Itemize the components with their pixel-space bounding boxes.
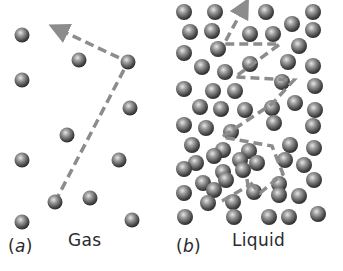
molecule — [258, 4, 274, 20]
gas-title: Gas — [68, 230, 101, 250]
molecule — [291, 188, 307, 204]
molecule — [123, 101, 138, 116]
molecule — [226, 209, 242, 225]
molecule — [48, 195, 63, 210]
panel-a-label: (a) — [8, 236, 33, 256]
molecule — [176, 81, 192, 97]
molecule — [177, 209, 193, 225]
molecule — [206, 148, 222, 164]
molecule — [217, 64, 233, 80]
molecule — [15, 215, 30, 230]
molecule — [287, 95, 303, 111]
molecule — [198, 120, 214, 136]
molecule — [282, 137, 298, 153]
molecule — [194, 59, 210, 75]
molecule — [60, 128, 75, 143]
molecule — [200, 195, 216, 211]
molecule — [280, 54, 296, 70]
molecule — [305, 4, 321, 20]
molecule — [266, 115, 282, 131]
states-of-matter-figure — [0, 0, 343, 271]
molecule — [305, 22, 321, 38]
gas-molecule-path — [55, 29, 128, 202]
molecule — [237, 102, 253, 118]
molecule — [265, 26, 281, 42]
molecule — [307, 78, 323, 94]
molecule — [213, 101, 229, 117]
molecule — [15, 28, 30, 43]
molecule — [274, 74, 290, 90]
molecule — [72, 53, 87, 68]
panel-a-letter: a — [15, 236, 26, 256]
liquid-title: Liquid — [232, 230, 285, 250]
panel-b-label: (b) — [176, 236, 201, 256]
gas-panel — [15, 28, 140, 230]
molecule — [242, 26, 258, 42]
molecule — [112, 153, 127, 168]
molecule — [125, 213, 140, 228]
liquid-molecules — [176, 4, 326, 225]
molecule — [182, 24, 198, 40]
molecule — [176, 4, 192, 20]
molecule — [207, 4, 223, 20]
molecule — [192, 99, 208, 115]
liquid-panel — [176, 4, 326, 225]
molecule — [291, 38, 307, 54]
molecule — [176, 185, 192, 201]
molecule — [227, 83, 243, 99]
molecule — [83, 191, 98, 206]
molecule — [306, 140, 322, 156]
molecule — [305, 118, 321, 134]
molecule — [15, 153, 30, 168]
molecule — [306, 172, 322, 188]
molecule — [210, 41, 226, 57]
molecule — [121, 55, 136, 70]
molecule — [184, 137, 200, 153]
molecule — [277, 152, 293, 168]
molecule — [176, 161, 192, 177]
molecule — [284, 16, 300, 32]
molecule — [307, 102, 323, 118]
molecule — [176, 117, 192, 133]
molecule — [310, 206, 326, 222]
molecule — [235, 162, 251, 178]
molecule — [249, 155, 265, 171]
molecule — [281, 209, 297, 225]
molecule — [271, 187, 287, 203]
molecule — [261, 209, 277, 225]
molecule — [204, 23, 220, 39]
liquid-molecule-path — [222, 7, 294, 201]
molecule — [15, 73, 30, 88]
gas-molecules — [15, 28, 140, 230]
molecule — [296, 157, 312, 173]
molecule — [205, 83, 221, 99]
molecule — [176, 45, 192, 61]
molecule — [305, 58, 321, 74]
panel-b-letter: b — [183, 236, 194, 256]
